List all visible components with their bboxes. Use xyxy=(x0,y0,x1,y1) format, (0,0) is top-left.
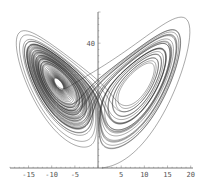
trajectory-layer xyxy=(16,17,190,168)
x-tick-label: 10 xyxy=(140,171,148,179)
ticks-layer: -15-10-5510152040 xyxy=(10,12,195,179)
lorenz-trajectory-line xyxy=(16,17,190,168)
x-tick-label: 5 xyxy=(119,171,123,179)
y-tick-label: 40 xyxy=(87,40,95,48)
x-tick-label: -10 xyxy=(45,171,58,179)
x-tick-label: 20 xyxy=(186,171,194,179)
x-tick-label: -5 xyxy=(71,171,79,179)
lorenz-attractor-plot: -15-10-5510152040 xyxy=(0,0,208,191)
x-tick-label: -15 xyxy=(22,171,35,179)
x-tick-label: 15 xyxy=(163,171,171,179)
